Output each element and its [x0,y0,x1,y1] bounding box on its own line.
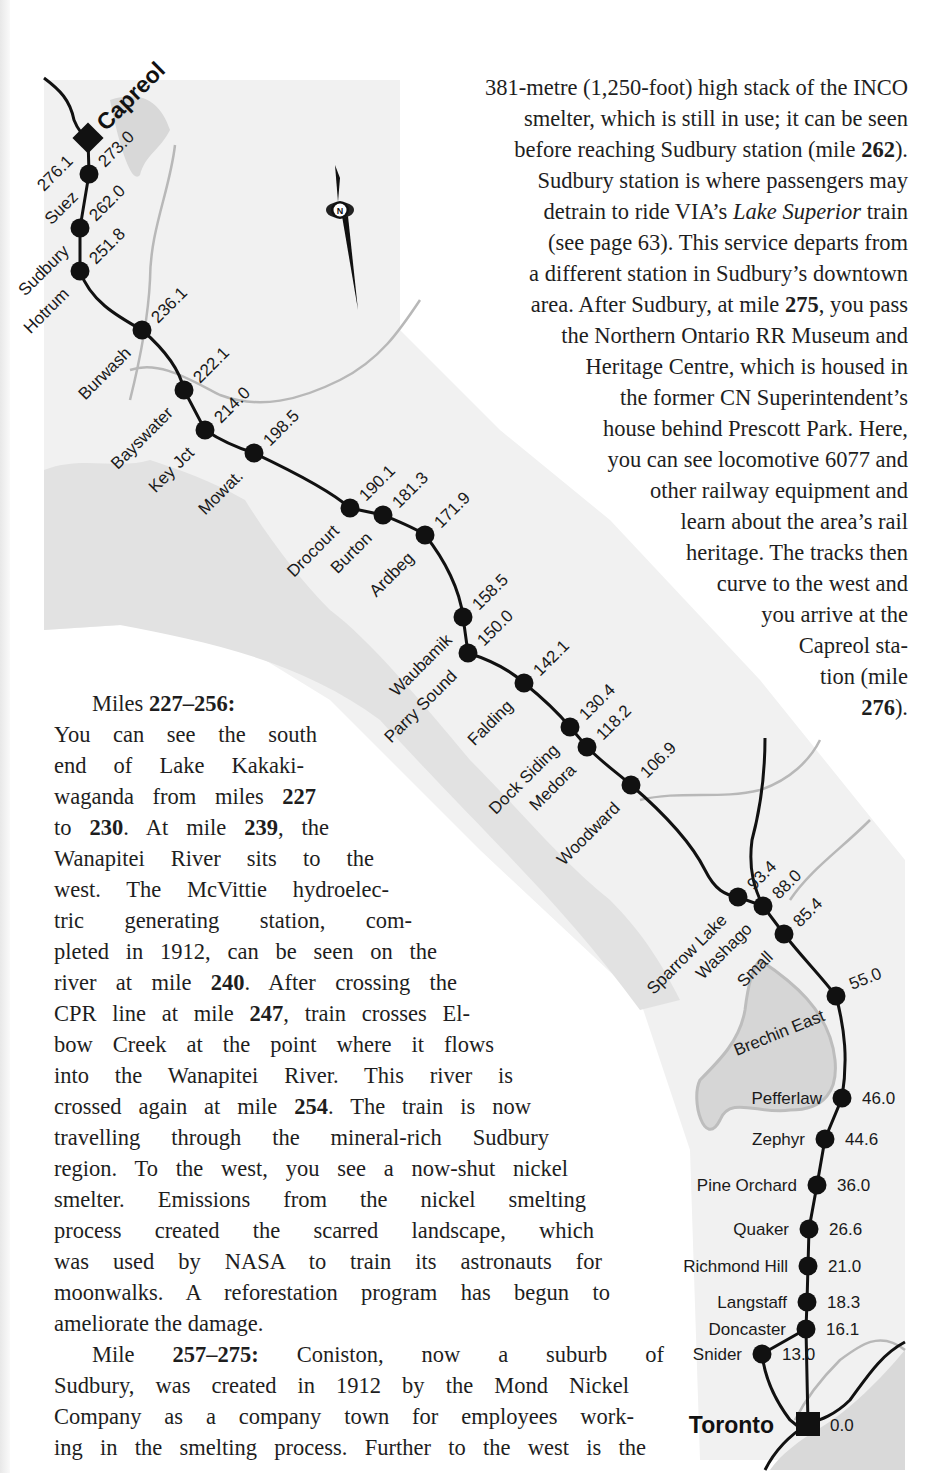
text-line: to 230. At mile 239, the [54,812,329,843]
text-line: a different station in Sudbury’s downtow… [485,258,908,289]
station-name: Pefferlaw [751,1089,822,1108]
text-line: detrain to ride VIA’s Lake Superior trai… [485,196,908,227]
station-dot [729,888,748,907]
text-line: heritage. The tracks then [485,537,908,568]
text-line: learn about the area’s rail [485,506,908,537]
station-mileage: 16.1 [826,1320,859,1339]
station-dot [133,321,152,340]
station-name: Langstaff [717,1293,787,1312]
text-line: into the Wanapitei River. This river is [54,1060,513,1091]
station-marker: Pine Orchard36.0 [697,1176,870,1196]
station-dot [80,165,99,184]
text-line: area. After Sudbury, at mile 275, you pa… [485,289,908,320]
text-line: the former CN Superintendent’s [485,382,908,413]
text-line: before reaching Sudbury station (mile 26… [485,134,908,165]
bold-mile-number: 227 [282,784,316,809]
bold-mile-number: 257–275: [172,1342,258,1367]
station-mileage: 21.0 [828,1257,861,1276]
bold-mile-number: 276 [861,695,895,720]
station-dot [459,644,478,663]
station-dot [827,987,846,1006]
text-line: you arrive at the [485,599,908,630]
bold-mile-number: 227–256: [149,691,235,716]
station-mileage: 46.0 [862,1089,895,1108]
station-marker: Doncaster16.1 [709,1320,860,1340]
station-dot [808,1176,827,1195]
text-line: curve to the west and [485,568,908,599]
text-line: You can see the south [54,719,317,750]
station-dot [754,897,773,916]
bold-mile-number: 262 [861,137,895,162]
station-name: Zephyr [752,1130,805,1149]
bold-mile-number: 230 [90,815,124,840]
text-line: was used by NASA to train its astronauts… [54,1246,602,1277]
station-mileage: 44.6 [845,1130,878,1149]
text-line: smelter. Emissions from the nickel smelt… [54,1184,586,1215]
terminal-mileage: 0.0 [830,1416,854,1435]
text-line: the Northern Ontario RR Museum and [485,320,908,351]
text-line: west. The McVittie hydroelec- [54,874,389,905]
station-dot [798,1293,817,1312]
station-dot [833,1089,852,1108]
station-mileage: 13.0 [782,1345,815,1364]
station-name: Snider [693,1345,742,1364]
station-name: Quaker [733,1220,789,1239]
text-line: Heritage Centre, which is housed in [485,351,908,382]
station-dot [71,262,90,281]
station-dot [797,1320,816,1339]
station-dot [245,444,264,463]
text-line: Miles 227–256: [54,688,654,719]
text-line: Wanapitei River sits to the [54,843,374,874]
terminal-name: Toronto [689,1412,774,1438]
text-line: region. To the west, you see a now-shut … [54,1153,568,1184]
station-mileage: 26.6 [829,1220,862,1239]
text-line: bow Creek at the point where it flows [54,1029,494,1060]
text-line: travelling through the mineral-rich Sudb… [54,1122,549,1153]
text-line: Mile 257–275: Coniston, now a suburb of [54,1339,664,1370]
text-line: CPR line at mile 247, train crosses El- [54,998,470,1029]
text-line: crossed again at mile 254. The train is … [54,1091,531,1122]
station-dot [775,925,794,944]
station-name: Pine Orchard [697,1176,797,1195]
station-dot [816,1130,835,1149]
station-dot [753,1345,772,1364]
text-line: Sudbury station is where passengers may [485,165,908,196]
text-line: house behind Prescott Park. Here, [485,413,908,444]
left-text-column: Miles 227–256:You can see the southend o… [54,688,654,1463]
text-line: ing in the smelting process. Further to … [54,1432,646,1463]
text-line: Sudbury, was created in 1912 by the Mond… [54,1370,629,1401]
text-line: smelter, which is still in use; it can b… [485,103,908,134]
station-dot [341,499,360,518]
station-dot [196,421,215,440]
station-name: Doncaster [709,1320,787,1339]
bold-mile-number: 254 [294,1094,328,1119]
station-dot [454,608,473,627]
station-name: Richmond Hill [683,1257,788,1276]
station-mileage: 36.0 [837,1176,870,1195]
text-line: Capreol sta- [485,630,908,661]
right-text-column: 381-metre (1,250-foot) high stack of the… [485,72,908,723]
bold-mile-number: 240 [211,970,245,995]
italic-train-name: Lake Superior [733,199,861,224]
station-mileage: 18.3 [827,1293,860,1312]
station-marker: Richmond Hill21.0 [683,1257,861,1277]
text-line: process created the scarred landscape, w… [54,1215,594,1246]
compass-n-label: N [337,206,344,216]
bold-mile-number: 239 [244,815,278,840]
text-line: ameliorate the damage. [54,1308,654,1339]
station-dot [374,506,393,525]
text-line: (see page 63). This service departs from [485,227,908,258]
text-line: river at mile 240. After crossing the [54,967,457,998]
text-line: 381-metre (1,250-foot) high stack of the… [485,72,908,103]
text-line: moonwalks. A reforestation program has b… [54,1277,610,1308]
text-line: Company as a company town for employees … [54,1401,634,1432]
text-line: other railway equipment and [485,475,908,506]
bold-mile-number: 275 [785,292,819,317]
station-dot [71,219,90,238]
terminal-square [796,1412,820,1436]
station-dot [175,381,194,400]
text-line: tric generating station, com- [54,905,412,936]
bold-mile-number: 247 [250,1001,284,1026]
text-line: pleted in 1912, can be seen on the [54,936,437,967]
text-line: waganda from miles 227 [54,781,316,812]
